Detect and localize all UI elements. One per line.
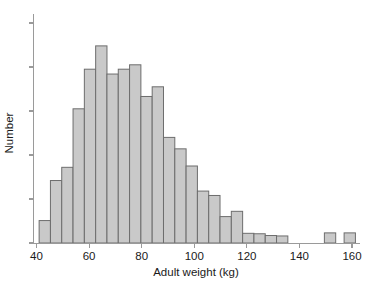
- histogram-bar: [141, 96, 152, 243]
- histogram-bar: [254, 234, 265, 243]
- histogram-bar: [39, 221, 50, 243]
- histogram-bar: [84, 69, 95, 243]
- histogram-bar: [231, 211, 242, 243]
- x-tick-label: 60: [83, 250, 96, 262]
- x-tick-label: 120: [237, 250, 256, 262]
- histogram-chart: 406080100120140160 Adult weight (kg) Num…: [0, 0, 386, 295]
- x-tick-label: 80: [135, 250, 148, 262]
- histogram-bar: [209, 195, 220, 243]
- histogram-bar: [96, 46, 107, 243]
- histogram-bar: [175, 149, 186, 243]
- histogram-bar: [265, 236, 276, 243]
- y-axis-title: Number: [3, 112, 15, 153]
- histogram-bar: [73, 109, 84, 243]
- histogram-bar: [243, 233, 254, 243]
- histogram-bar: [163, 137, 174, 243]
- histogram-bar: [50, 181, 61, 243]
- histogram-bar: [344, 233, 355, 243]
- x-axis-title: Adult weight (kg): [153, 266, 239, 278]
- histogram-bar: [152, 87, 163, 243]
- histogram-bar: [118, 69, 129, 243]
- histogram-bar: [197, 191, 208, 243]
- histogram-bar: [186, 166, 197, 243]
- x-tick-label: 100: [185, 250, 204, 262]
- x-tick-label: 160: [342, 250, 361, 262]
- histogram-bar: [220, 217, 231, 243]
- chart-canvas: 406080100120140160 Adult weight (kg) Num…: [0, 0, 386, 295]
- x-tick-label: 140: [290, 250, 309, 262]
- histogram-bar: [277, 236, 288, 243]
- histogram-bar: [130, 65, 141, 243]
- histogram-bar: [62, 167, 73, 243]
- histogram-bar: [107, 74, 118, 243]
- x-tick-label: 40: [30, 250, 43, 262]
- histogram-bar: [324, 233, 335, 243]
